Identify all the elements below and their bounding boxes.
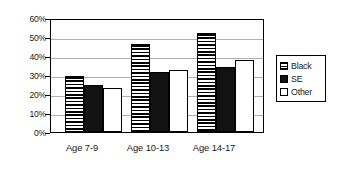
- legend-swatch-icon: [280, 88, 288, 96]
- y-axis-tick-label: 30%: [6, 72, 46, 81]
- legend-item-label: Other: [291, 87, 312, 97]
- legend: Black SE Other: [276, 55, 326, 102]
- legend-item-other: Other: [280, 85, 322, 98]
- legend-item-se: SE: [280, 72, 322, 85]
- bar-black: [197, 33, 216, 132]
- bar-black: [131, 44, 150, 132]
- bar-other: [235, 60, 254, 132]
- bar-other: [169, 70, 188, 132]
- legend-item-label: SE: [291, 74, 302, 84]
- legend-item-black: Black: [280, 59, 322, 72]
- bar-se: [216, 67, 235, 132]
- legend-swatch-icon: [280, 75, 288, 83]
- y-axis-tick-label: 60%: [6, 15, 46, 24]
- y-axis-tick-label: 50%: [6, 34, 46, 43]
- legend-swatch-icon: [280, 62, 288, 70]
- bar-black: [65, 76, 84, 132]
- bar-se: [84, 85, 103, 132]
- y-axis-tick-label: 40%: [6, 53, 46, 62]
- y-axis-tick-mark: [45, 133, 50, 134]
- bar-se: [150, 72, 169, 132]
- plot-area: [50, 19, 264, 133]
- bar-other: [103, 88, 122, 132]
- x-axis-category-label: Age 14-17: [174, 142, 254, 153]
- bar-group: [131, 20, 187, 132]
- bar-group: [197, 20, 253, 132]
- legend-item-label: Black: [291, 61, 312, 71]
- y-axis-tick-label: 20%: [6, 91, 46, 100]
- y-axis-tick-label: 0%: [6, 129, 46, 138]
- bar-chart: 60% 50% 40% 30% 20% 10% 0%: [0, 0, 340, 170]
- y-axis-tick-label: 10%: [6, 110, 46, 119]
- bar-group: [65, 20, 121, 132]
